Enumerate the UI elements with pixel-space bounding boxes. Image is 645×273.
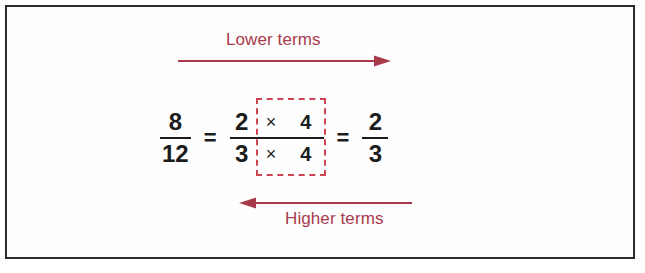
denominator-factor-cell: × 4 <box>254 141 324 167</box>
left-fraction-denominator: 12 <box>160 139 191 169</box>
middle-fraction: 2 × 4 3 × 4 <box>230 107 324 169</box>
numerator-times-icon: × <box>266 113 277 131</box>
right-fraction-denominator: 3 <box>367 139 384 169</box>
arrow-right-icon <box>178 54 392 68</box>
fraction-terms-figure: Lower terms Higher terms 8 12 = 2 × <box>0 0 645 273</box>
numerator-factor-cell: × 4 <box>254 109 324 135</box>
middle-fraction-numerator-row: 2 × 4 <box>230 107 324 137</box>
denominator-factor-value: 4 <box>300 144 311 164</box>
right-fraction-numerator: 2 <box>367 107 384 137</box>
middle-fraction-denominator: 3 <box>230 139 254 169</box>
lower-terms-label: Lower terms <box>226 30 321 50</box>
left-fraction-numerator: 8 <box>167 107 184 137</box>
arrow-left-icon <box>236 196 412 210</box>
denominator-times-icon: × <box>266 145 277 163</box>
left-fraction: 8 12 <box>160 107 191 169</box>
right-fraction: 2 3 <box>362 107 388 169</box>
higher-terms-label: Higher terms <box>285 209 384 229</box>
equals-sign-1: = <box>204 125 217 151</box>
equals-sign-2: = <box>337 125 350 151</box>
equation: 8 12 = 2 × 4 3 × 4 <box>160 97 388 179</box>
middle-fraction-numerator: 2 <box>230 107 254 137</box>
numerator-factor-value: 4 <box>300 112 311 132</box>
middle-fraction-denominator-row: 3 × 4 <box>230 139 324 169</box>
